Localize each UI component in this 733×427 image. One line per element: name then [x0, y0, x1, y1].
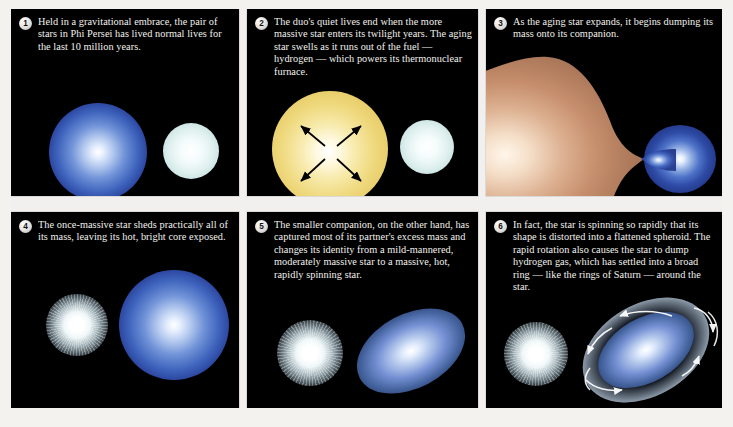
panel-3-number: 3 [494, 17, 507, 30]
massive-blue-star [49, 103, 147, 196]
page-edge-left [0, 0, 11, 427]
panel-6-caption-text: In fact, the star is spinning so rapidly… [513, 219, 716, 293]
panel-4-caption-text: The once-massive star sheds practically … [38, 219, 233, 244]
page-edge-top [0, 0, 733, 9]
panel-1-number: 1 [19, 17, 32, 30]
exposed-hot-core [277, 320, 343, 386]
panel-1: 1 Held in a gravitational embrace, the p… [11, 9, 239, 196]
panel-6: 6 In fact, the star is spinning so rapid… [486, 212, 722, 408]
flattened-spinning-star [342, 291, 478, 408]
panel-5-caption: 5 The smaller companion, on the other ha… [255, 219, 472, 281]
panel-4-caption: 4 The once-massive star sheds practicall… [19, 219, 233, 244]
figure-sheet: 1 Held in a gravitational embrace, the p… [0, 0, 733, 427]
panel-4: 4 The once-massive star sheds practicall… [11, 212, 239, 408]
panel-3: 3 As the aging star expands, it begins d… [486, 9, 722, 196]
panel-5-number: 5 [255, 220, 268, 233]
panel-2-number: 2 [255, 17, 268, 30]
panel-6-number: 6 [494, 220, 507, 233]
panel-4-number: 4 [19, 220, 32, 233]
panel-3-caption: 3 As the aging star expands, it begins d… [494, 16, 716, 41]
grown-blue-star [119, 270, 229, 380]
panel-2-caption-text: The duo's quiet lives end when the more … [274, 16, 472, 78]
panel-6-caption: 6 In fact, the star is spinning so rapid… [494, 219, 716, 293]
panel-5: 5 The smaller companion, on the other ha… [247, 212, 478, 408]
companion-white-star [400, 120, 454, 174]
panel-1-caption-text: Held in a gravitational embrace, the pai… [38, 16, 233, 53]
panel-2-caption: 2 The duo's quiet lives end when the mor… [255, 16, 472, 78]
panel-1-caption: 1 Held in a gravitational embrace, the p… [19, 16, 233, 53]
page-edge-right [722, 0, 733, 427]
panel-2: 2 The duo's quiet lives end when the mor… [247, 9, 478, 196]
exposed-hot-core [46, 294, 108, 356]
panel-3-caption-text: As the aging star expands, it begins dum… [513, 16, 716, 41]
companion-white-star [163, 123, 219, 179]
panel-5-caption-text: The smaller companion, on the other hand… [274, 219, 472, 281]
page-edge-bottom [0, 408, 733, 427]
